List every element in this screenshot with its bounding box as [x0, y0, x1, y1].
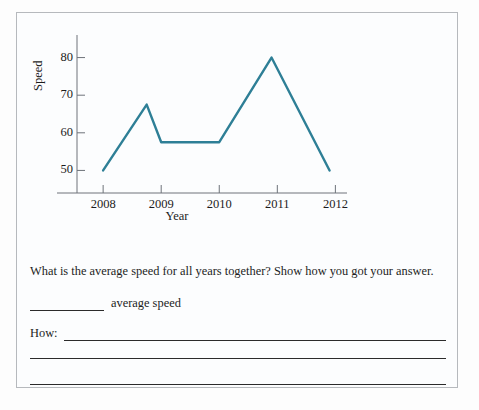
y-tick-label-50: 50 [39, 162, 73, 177]
y-tick-label-60: 60 [39, 125, 73, 140]
speed-line-chart: Speed 50607080 20082009201020112012 Year [17, 13, 459, 239]
x-axis-ticks [103, 185, 335, 193]
question-text: What is the average speed for all years … [30, 263, 434, 279]
speed-data-line [103, 58, 329, 171]
how-row: How: [30, 326, 446, 341]
how-blank-input-line-1[interactable] [64, 328, 446, 341]
answer-row: average speed [30, 296, 181, 311]
worksheet-panel: Speed 50607080 20082009201020112012 Year… [16, 12, 458, 388]
how-blank-input-line-3[interactable] [30, 384, 446, 385]
answer-label: average speed [111, 296, 181, 311]
y-tick-label-80: 80 [39, 50, 73, 65]
y-tick-label-70: 70 [39, 87, 73, 102]
answer-blank-input[interactable] [30, 298, 104, 311]
how-blank-input-line-2[interactable] [30, 358, 446, 359]
y-axis-ticks [77, 58, 85, 171]
x-axis-title: Year [17, 209, 337, 224]
how-label: How: [30, 326, 58, 341]
